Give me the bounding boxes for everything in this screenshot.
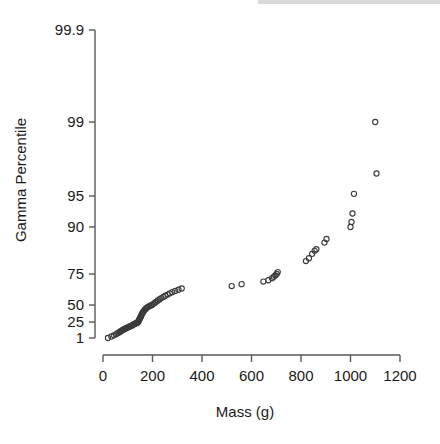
data-point — [349, 219, 354, 224]
x-axis-tick-labels: 020040060080010001200 — [99, 367, 417, 384]
y-axis-label: Gamma Percentile — [12, 118, 29, 242]
x-tick-label-0: 0 — [99, 367, 107, 384]
x-axis-label: Mass (g) — [216, 403, 274, 420]
probability-plot-figure: 125507590959999.9 020040060080010001200 … — [0, 0, 440, 444]
data-point-series — [105, 119, 379, 340]
y-tick-label-90: 90 — [67, 218, 84, 235]
data-point — [261, 279, 266, 284]
top-edge-artifact — [258, 0, 440, 4]
scatter-plot-canvas: 125507590959999.9 020040060080010001200 … — [0, 0, 440, 444]
data-point — [239, 282, 244, 287]
data-point — [229, 283, 234, 288]
x-tick-label-400: 400 — [189, 367, 214, 384]
y-axis-ticks — [89, 30, 95, 338]
y-tick-label-25: 25 — [67, 313, 84, 330]
x-tick-label-200: 200 — [140, 367, 165, 384]
y-tick-label-95: 95 — [67, 187, 84, 204]
y-tick-label-99: 99 — [67, 113, 84, 130]
x-axis-ticks — [103, 355, 400, 362]
data-point — [351, 191, 356, 196]
y-tick-label-99.9: 99.9 — [55, 21, 84, 38]
data-point — [179, 286, 184, 291]
y-tick-label-1: 1 — [76, 329, 84, 346]
x-tick-label-800: 800 — [288, 367, 313, 384]
data-point — [176, 287, 181, 292]
y-tick-label-50: 50 — [67, 296, 84, 313]
data-point — [348, 224, 353, 229]
y-tick-label-75: 75 — [67, 265, 84, 282]
x-tick-label-1200: 1200 — [383, 367, 416, 384]
x-tick-label-1000: 1000 — [334, 367, 367, 384]
data-point — [350, 211, 355, 216]
y-axis-tick-labels: 125507590959999.9 — [55, 21, 84, 346]
data-point — [373, 119, 378, 124]
data-point — [374, 171, 379, 176]
x-tick-label-600: 600 — [239, 367, 264, 384]
